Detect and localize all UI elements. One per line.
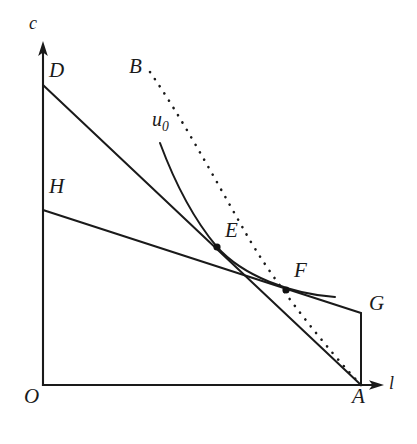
y-axis-label: c	[29, 14, 37, 32]
budget-line-DA	[43, 85, 361, 385]
point-label-F: F	[294, 260, 307, 281]
point-dot-F	[282, 286, 289, 293]
indifference-curve-label-subscript: 0	[162, 119, 169, 134]
indifference-curve-label-base: u	[152, 108, 162, 130]
indifference-curve-label: u0	[152, 109, 169, 134]
point-label-H: H	[49, 176, 64, 197]
point-label-B: B	[129, 56, 142, 77]
point-label-G: G	[369, 293, 384, 314]
point-label-O: O	[24, 386, 39, 407]
point-label-A: A	[352, 386, 365, 407]
point-label-D: D	[49, 60, 64, 81]
dotted-curve-BA	[150, 72, 361, 385]
x-axis-label: l	[389, 374, 394, 392]
point-label-E: E	[225, 220, 238, 241]
figure-root: c l O D H B E F G A u0	[0, 0, 417, 444]
point-dot-E	[213, 243, 220, 250]
